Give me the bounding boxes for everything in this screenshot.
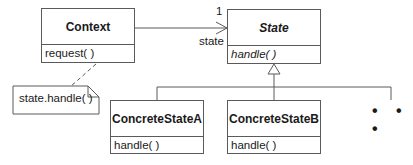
- class-name: State: [228, 10, 320, 46]
- class-name: ConcreteStateB: [228, 101, 320, 137]
- class-concrete-state-b: ConcreteStateB handle( ): [227, 100, 321, 154]
- note-anchor-line: [70, 64, 96, 87]
- multiplicity-label: 1: [216, 5, 222, 17]
- class-name: Context: [42, 9, 134, 45]
- class-state: State handle( ): [227, 9, 321, 64]
- ellipsis-icon: • • •: [372, 102, 413, 138]
- class-context: Context request( ): [41, 8, 135, 63]
- generalization-triangle-icon: [268, 64, 280, 74]
- class-name: ConcreteStateA: [111, 101, 203, 137]
- class-operation: handle( ): [111, 137, 203, 154]
- note-text: state.handle( ): [19, 92, 93, 104]
- class-operation: request( ): [42, 45, 134, 62]
- class-operation: handle( ): [228, 46, 320, 63]
- class-concrete-state-a: ConcreteStateA handle( ): [110, 100, 204, 154]
- role-label: state: [199, 35, 224, 47]
- class-operation: handle( ): [228, 137, 320, 154]
